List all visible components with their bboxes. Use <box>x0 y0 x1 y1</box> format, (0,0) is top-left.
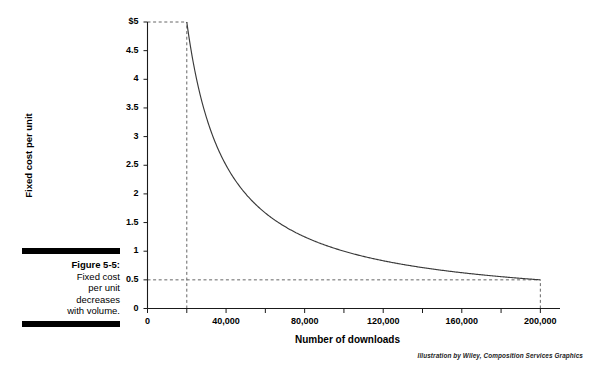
illustration-attribution: Illustration by Wiley, Composition Servi… <box>418 352 583 359</box>
x-axis-tick-label: 0 <box>118 316 178 326</box>
y-axis-tick-label: 3 <box>99 131 139 141</box>
x-axis-tick-label: 160,000 <box>432 316 492 326</box>
y-axis-tick-label: 2 <box>99 188 139 198</box>
x-axis-tick-label: 120,000 <box>353 316 413 326</box>
y-axis-tick-label: 4.5 <box>99 45 139 55</box>
y-axis-title: Fixed cost per unit <box>23 96 34 216</box>
y-axis-tick-label: 2.5 <box>99 159 139 169</box>
y-axis-tick-label: 1.5 <box>99 217 139 227</box>
reference-lines-group <box>148 22 541 309</box>
y-axis-tick-label: 4 <box>99 73 139 83</box>
x-axis-tick-label: 200,000 <box>510 316 570 326</box>
y-axis-tick-label: 0 <box>99 303 139 313</box>
x-axis-tick-label: 80,000 <box>275 316 335 326</box>
x-axis-tick-label: 40,000 <box>196 316 256 326</box>
y-axis-tick-label: 0.5 <box>99 274 139 284</box>
data-series-group <box>187 22 541 280</box>
y-axis-tick-label: 1 <box>99 245 139 255</box>
axes-group <box>144 22 561 313</box>
cost-curve <box>187 22 541 280</box>
chart-figure: Fixed cost per unit Number of downloads … <box>0 0 595 379</box>
x-axis-title: Number of downloads <box>147 334 548 345</box>
y-axis-tick-label: 3.5 <box>99 102 139 112</box>
y-axis-tick-label: $5 <box>99 16 139 26</box>
